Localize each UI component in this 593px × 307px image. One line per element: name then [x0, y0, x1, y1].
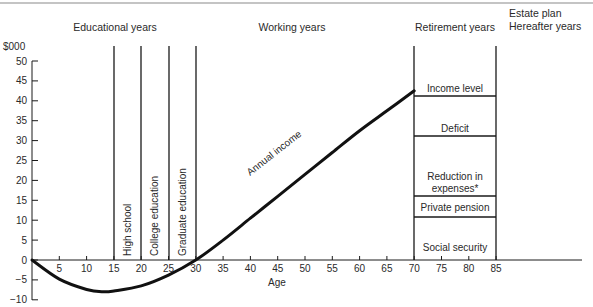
college-education-label: College education	[149, 176, 160, 256]
reduction-in-expenses-label-line2: expenses*	[432, 183, 479, 194]
y-axis-ticks: 50454035302520151050−5−10	[10, 56, 38, 306]
y-tick-label: 40	[16, 95, 28, 106]
social-security-label: Social security	[423, 242, 487, 253]
annual-income-label: Annual income	[244, 128, 303, 178]
y-tick-label: 20	[16, 175, 28, 186]
stage-working-label: Working years	[259, 21, 326, 33]
x-tick-label: 40	[245, 263, 257, 274]
x-tick-label: 50	[299, 263, 311, 274]
x-tick-label: 20	[136, 263, 148, 274]
retirement-stack	[414, 46, 496, 260]
y-tick-label: 45	[16, 75, 28, 86]
stage-estate-label-line2: Hereafter years	[509, 20, 581, 32]
x-tick-label: 35	[218, 263, 230, 274]
y-tick-label: 15	[16, 195, 28, 206]
life-cycle-income-chart: Educational years Working years Retireme…	[0, 0, 593, 307]
x-tick-label: 75	[436, 263, 448, 274]
x-axis-ticks: 510152025303540455055606570758085	[57, 256, 503, 274]
x-tick-label: 5	[57, 263, 63, 274]
x-tick-label: 70	[409, 263, 421, 274]
annual-income-curve	[32, 91, 414, 292]
y-tick-label: 10	[16, 215, 28, 226]
high-school-label: High school	[122, 204, 133, 256]
y-tick-label: −10	[10, 294, 27, 305]
y-tick-label: 0	[21, 255, 27, 266]
x-tick-label: 45	[272, 263, 284, 274]
x-tick-label: 15	[108, 263, 120, 274]
x-tick-label: 30	[190, 263, 202, 274]
stage-educational-label: Educational years	[73, 21, 156, 33]
x-tick-label: 85	[491, 263, 503, 274]
y-tick-label: 35	[16, 115, 28, 126]
stage-retirement-label: Retirement years	[415, 21, 495, 33]
y-tick-label: 50	[16, 56, 28, 67]
reduction-in-expenses-label-line1: Reduction in	[427, 171, 483, 182]
y-tick-label: −5	[16, 274, 28, 285]
y-tick-label: 25	[16, 155, 28, 166]
x-tick-label: 10	[81, 263, 93, 274]
income-level-label: Income level	[427, 83, 483, 94]
x-tick-label: 55	[327, 263, 339, 274]
graduate-education-label: Graduate education	[177, 168, 188, 256]
y-tick-label: 30	[16, 135, 28, 146]
x-tick-label: 60	[354, 263, 366, 274]
private-pension-label: Private pension	[421, 202, 490, 213]
deficit-label: Deficit	[441, 123, 469, 134]
x-tick-label: 80	[463, 263, 475, 274]
stage-estate-label-line1: Estate plan	[509, 7, 562, 19]
y-axis-unit-label: $000	[3, 41, 26, 52]
x-tick-label: 65	[381, 263, 393, 274]
y-tick-label: 5	[21, 235, 27, 246]
x-axis-label: Age	[268, 277, 286, 288]
